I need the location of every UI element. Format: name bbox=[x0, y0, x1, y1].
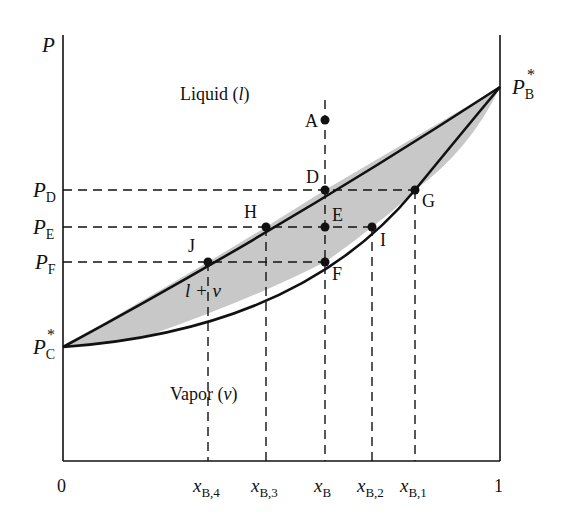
point-J bbox=[204, 258, 213, 267]
label-I: I bbox=[380, 230, 386, 250]
label-PC-star-sup: * bbox=[47, 326, 55, 343]
label-xB1: xB,1 bbox=[399, 475, 427, 500]
point-H bbox=[262, 223, 271, 232]
label-E: E bbox=[332, 205, 343, 225]
label-PE: PE bbox=[32, 215, 54, 242]
x-tick-1: 1 bbox=[494, 476, 503, 496]
label-H: H bbox=[244, 202, 257, 222]
label-xB4: xB,4 bbox=[192, 475, 220, 500]
x-tick-0: 0 bbox=[57, 476, 66, 496]
label-PB-star-sup: * bbox=[527, 66, 535, 83]
y-axis-label: P bbox=[41, 33, 55, 57]
label-xB3: xB,3 bbox=[250, 475, 278, 500]
label-D: D bbox=[306, 167, 319, 187]
label-xB: xB bbox=[313, 475, 331, 500]
two-phase-fill bbox=[63, 87, 500, 347]
label-A: A bbox=[305, 111, 318, 131]
point-F bbox=[321, 258, 330, 267]
region-two-phase-label: l + v bbox=[185, 280, 222, 301]
label-PD: PD bbox=[32, 178, 56, 205]
point-G bbox=[411, 186, 420, 195]
label-G: G bbox=[422, 191, 435, 211]
label-PF: PF bbox=[34, 250, 56, 277]
region-liquid-label: Liquid (l) bbox=[180, 84, 250, 105]
point-A bbox=[321, 116, 330, 125]
point-D bbox=[321, 186, 330, 195]
label-J: J bbox=[188, 236, 195, 256]
point-E bbox=[321, 223, 330, 232]
label-xB2: xB,2 bbox=[356, 475, 384, 500]
phase-diagram: A D E F G H I J P PD PE PF PC * PB * Liq… bbox=[0, 0, 563, 521]
label-F: F bbox=[332, 264, 342, 284]
point-I bbox=[368, 223, 377, 232]
region-vapor-label: Vapor (v) bbox=[170, 384, 237, 405]
